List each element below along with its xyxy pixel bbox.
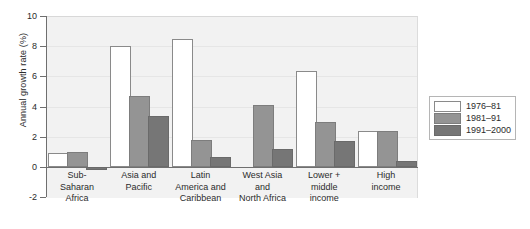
legend-item: 1991–2000: [434, 124, 511, 136]
bar: [110, 46, 131, 167]
bar: [315, 122, 336, 167]
bar: [296, 71, 317, 167]
bar: [191, 140, 212, 167]
bar-group: Highincome: [355, 16, 417, 197]
bar: [210, 157, 231, 167]
bar: [129, 96, 150, 167]
y-axis-tick: [40, 137, 46, 138]
legend-label: 1991–2000: [466, 125, 511, 135]
y-axis-tick-label: 2: [3, 132, 37, 142]
bar: [334, 141, 355, 167]
y-axis-tick: [40, 16, 46, 17]
bar: [396, 161, 417, 167]
legend-label: 1981–91: [466, 113, 501, 123]
y-axis-tick: [40, 107, 46, 108]
legend-label: 1976–81: [466, 101, 501, 111]
bar: [358, 131, 379, 167]
legend-item: 1981–91: [434, 112, 511, 124]
bar: [48, 153, 69, 167]
legend-swatch: [434, 125, 461, 136]
legend-swatch: [434, 113, 461, 124]
bar: [148, 116, 169, 167]
legend-item: 1976–81: [434, 100, 511, 112]
bar: [377, 131, 398, 167]
legend-swatch: [434, 101, 461, 112]
bar: [172, 39, 193, 167]
bar: [253, 105, 274, 167]
bar-chart-figure: Annual growth rate (%) -20246810 Sub-Sah…: [0, 0, 530, 229]
bar: [67, 152, 88, 167]
bar: [272, 149, 293, 166]
y-axis-tick: [40, 197, 46, 198]
legend: 1976–811981–911991–2000: [429, 96, 516, 140]
y-axis-tick-label: 8: [3, 41, 37, 51]
y-axis-tick: [40, 76, 46, 77]
y-axis-tick: [40, 46, 46, 47]
y-axis-tick: [40, 167, 46, 168]
y-axis-tick-label: 6: [3, 71, 37, 81]
y-axis-tick-label: 10: [3, 11, 37, 21]
bar-groups: Sub-SaharanAfricaAsia andPacificLatinAme…: [46, 16, 417, 197]
y-axis-tick-label: 4: [3, 102, 37, 112]
x-axis-category-label: Highincome: [340, 170, 432, 193]
